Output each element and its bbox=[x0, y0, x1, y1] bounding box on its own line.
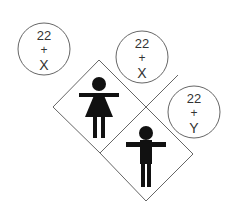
chromosome-circle-sperm-y: 22 + Y bbox=[168, 86, 220, 138]
sex-determination-diagram: 22 + X 22 + X 22 + Y bbox=[0, 0, 233, 216]
chromosome-circle-egg: 22 + X bbox=[18, 23, 70, 75]
male-figure-icon bbox=[126, 126, 166, 187]
sex-chromosome: Y bbox=[189, 120, 199, 136]
chromosome-circle-sperm-x: 22 + X bbox=[116, 31, 168, 83]
autosome-count: 22 bbox=[37, 28, 51, 43]
female-figure-icon bbox=[79, 77, 119, 138]
plus-sign: + bbox=[40, 43, 47, 57]
diagram-canvas: 22 + X 22 + X 22 + Y bbox=[0, 0, 233, 216]
sex-chromosome: X bbox=[39, 57, 49, 73]
plus-sign: + bbox=[190, 106, 197, 120]
autosome-count: 22 bbox=[187, 91, 201, 106]
sex-chromosome: X bbox=[137, 65, 147, 81]
autosome-count: 22 bbox=[135, 36, 149, 51]
plus-sign: + bbox=[138, 51, 145, 65]
